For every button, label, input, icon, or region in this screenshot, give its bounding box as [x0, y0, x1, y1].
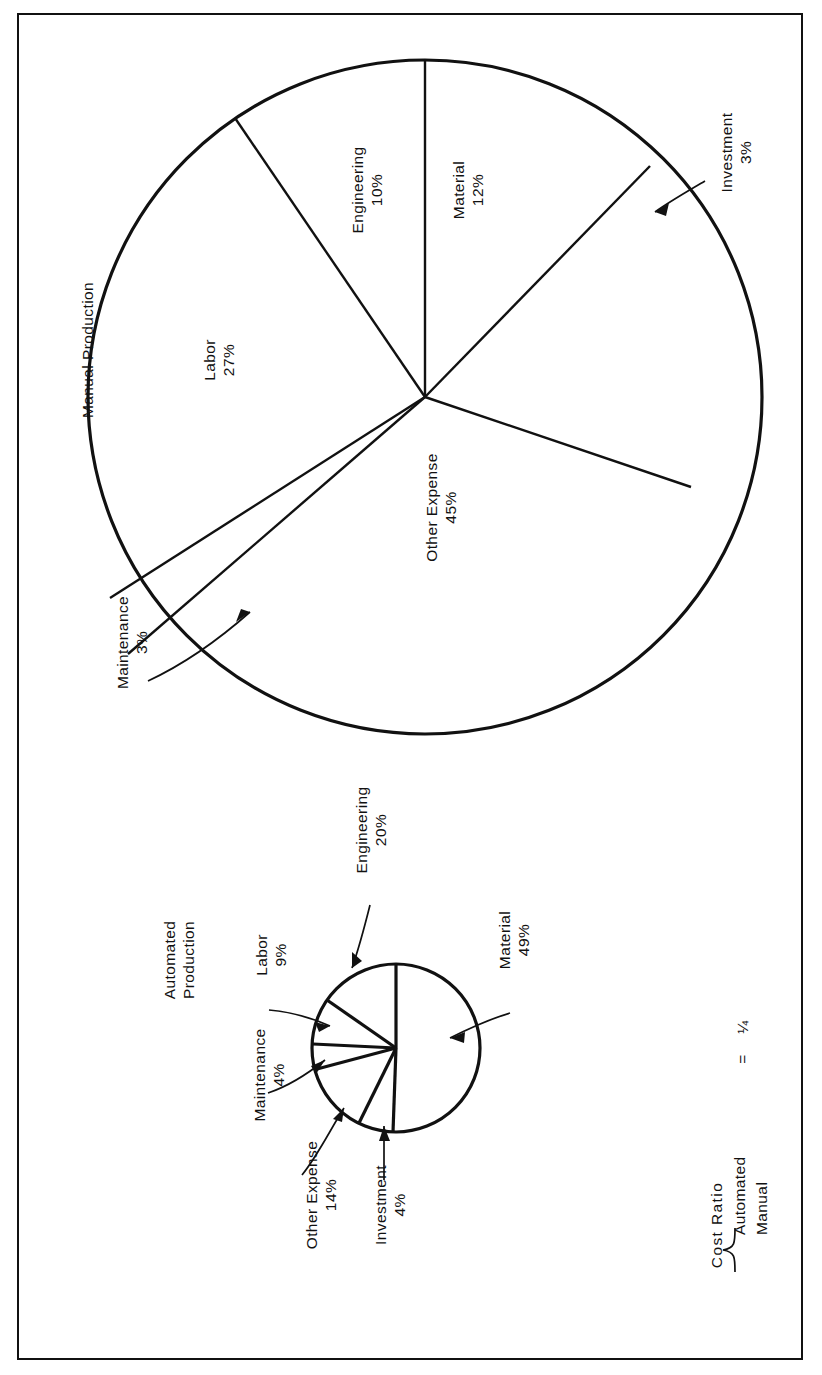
automated-label-other-expense: Other Expense14% — [302, 1105, 340, 1285]
automated-pie-graphic — [0, 0, 822, 1375]
automated-production-title: AutomatedProduction — [160, 865, 198, 1055]
automated-slice-edge-3 — [313, 1044, 396, 1048]
cost-ratio-label: Cost Ratio — [707, 1160, 726, 1290]
automated-label-investment: Investment4% — [371, 1130, 409, 1280]
automated-label-engineering: Engineering20% — [352, 760, 390, 900]
automated-slice-edge-2 — [327, 1000, 396, 1048]
cost-ratio-value: ¼ — [733, 1009, 752, 1045]
automated-label-material: Material49% — [495, 875, 533, 1005]
automated-label-maintenance: Maintenance4% — [250, 995, 288, 1155]
cost-ratio-numerator: Automated — [730, 1125, 749, 1235]
automated-slice-edge-4 — [317, 1048, 396, 1069]
automated-slice-edge-5 — [359, 1048, 396, 1123]
cost-ratio-denominator: Manual — [752, 1125, 771, 1235]
automated-label-labor: Labor9% — [252, 905, 290, 1005]
figure-page: Manual Production Engineering10% Materia… — [0, 0, 822, 1375]
automated-slice-edge-6 — [393, 1048, 396, 1132]
cost-ratio-equals: = — [733, 1044, 752, 1074]
